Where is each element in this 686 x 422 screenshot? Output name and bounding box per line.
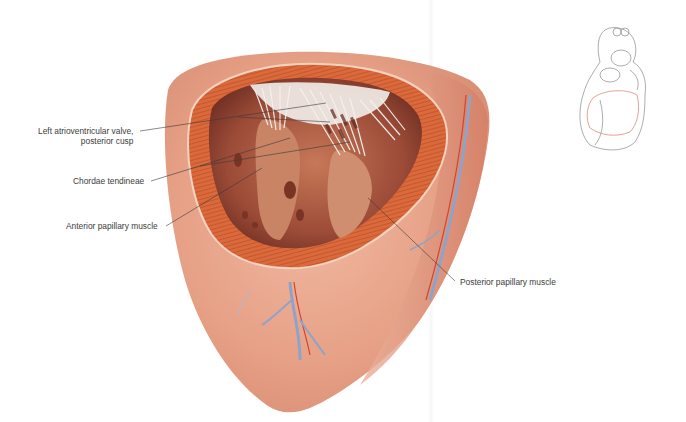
label-valve-line1: Left atrioventricular valve,: [38, 126, 133, 136]
trabeculae-hole: [242, 211, 248, 219]
trabeculae-hole: [296, 209, 304, 221]
trabeculae-hole: [252, 222, 258, 228]
inset-heart-outline: [580, 28, 646, 150]
label-valve-line2: posterior cusp: [38, 136, 133, 146]
inset-highlight-region: [587, 91, 638, 135]
inset-aorta: [613, 28, 621, 36]
label-chordae-tendineae: Chordae tendineae: [73, 176, 144, 186]
label-valve: Left atrioventricular valve, posterior c…: [38, 126, 133, 146]
orientation-inset-heart: [575, 20, 665, 155]
inset-pulmonary: [611, 50, 631, 66]
trabeculae-hole: [284, 181, 296, 199]
label-posterior-papillary-muscle: Posterior papillary muscle: [460, 277, 556, 287]
label-anterior-papillary-muscle: Anterior papillary muscle: [66, 221, 158, 231]
